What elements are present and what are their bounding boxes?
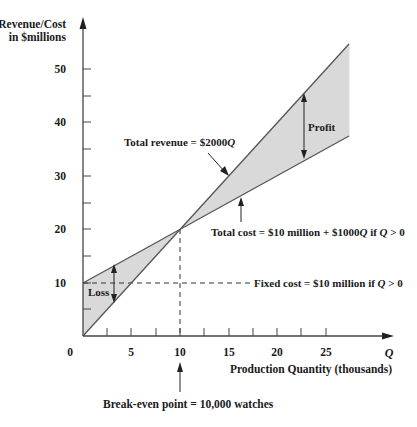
x-axis-arrow-icon <box>382 333 394 340</box>
x-tick-label: 25 <box>320 346 332 358</box>
x-tick-label: 15 <box>223 346 235 358</box>
x-ticks <box>107 328 326 336</box>
cost-pointer-arrow-icon <box>238 197 244 206</box>
y-tick-label: 40 <box>55 116 67 128</box>
break-even-label: Break-even point = 10,000 watches <box>103 398 274 411</box>
y-axis-arrow-icon <box>80 17 87 29</box>
total-revenue-line <box>83 44 349 336</box>
x-tick-label: 10 <box>174 346 186 358</box>
revenue-annotation: Total revenue = $2000Q <box>124 136 235 148</box>
x-axis-label: Production Quantity (thousands) <box>230 363 392 376</box>
x-tick-label: 5 <box>128 346 134 358</box>
y-tick-label: 10 <box>55 277 67 289</box>
break-even-chart: Revenue/Cost in $millions 50 40 30 20 10… <box>0 0 417 427</box>
origin-label: 0 <box>67 346 73 358</box>
x-tick-label: 20 <box>271 346 283 358</box>
fixed-cost-annotation: Fixed cost = $10 million if Q > 0 <box>254 277 403 289</box>
break-even-arrow-icon <box>177 362 183 372</box>
y-axis-label-line1: Revenue/Cost <box>0 18 66 30</box>
total-cost-line <box>83 136 349 283</box>
cost-annotation: Total cost = $10 million + $1000Q if Q >… <box>211 226 405 238</box>
x-axis-symbol: Q <box>385 346 394 360</box>
y-tick-label: 20 <box>55 223 67 235</box>
loss-label: Loss <box>88 286 110 298</box>
y-tick-label: 30 <box>55 170 67 182</box>
y-ticks <box>83 69 91 309</box>
y-tick-label: 50 <box>55 63 67 75</box>
profit-label: Profit <box>308 121 336 133</box>
y-axis-label-line2: in $millions <box>9 31 67 43</box>
